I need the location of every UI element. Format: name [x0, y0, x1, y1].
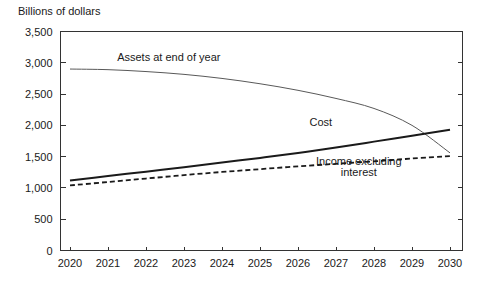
chart-figure: Billions of dollars 05001,0001,5002,0002… [0, 0, 477, 286]
y-tick-label: 500 [34, 213, 52, 225]
series-line-assets-at-end-of-year [70, 69, 450, 153]
y-tick-label: 0 [46, 245, 52, 257]
y-tick-label: 1,000 [25, 182, 53, 194]
series-annotation-label: Assets at end of year [117, 51, 221, 63]
y-tick-label: 3,500 [25, 26, 53, 38]
y-tick-label: 2,500 [25, 88, 53, 100]
x-tick-label: 2020 [58, 257, 82, 269]
series-annotation-label: Income excluding [316, 155, 402, 167]
y-axis-ticks: 05001,0001,5002,0002,5003,0003,500 [25, 26, 463, 257]
x-tick-label: 2027 [324, 257, 348, 269]
series-annotation-label: interest [341, 166, 377, 178]
y-tick-label: 1,500 [25, 151, 53, 163]
data-series-group [70, 69, 450, 185]
x-tick-label: 2022 [134, 257, 158, 269]
x-tick-label: 2023 [172, 257, 196, 269]
axis-frame [61, 32, 463, 251]
y-tick-label: 3,000 [25, 57, 53, 69]
x-tick-label: 2024 [210, 257, 234, 269]
x-tick-label: 2030 [438, 257, 462, 269]
series-annotation-label: Cost [309, 116, 332, 128]
x-tick-label: 2025 [248, 257, 272, 269]
series-annotations: Assets at end of yearCostIncome excludin… [117, 51, 401, 178]
x-tick-label: 2026 [286, 257, 310, 269]
x-axis-ticks: 2020202120222023202420252026202720282029… [58, 247, 462, 269]
y-tick-label: 2,000 [25, 119, 53, 131]
x-tick-label: 2028 [362, 257, 386, 269]
x-tick-label: 2021 [96, 257, 120, 269]
x-tick-label: 2029 [400, 257, 424, 269]
line-chart-plot: 05001,0001,5002,0002,5003,0003,500 20202… [0, 0, 477, 286]
